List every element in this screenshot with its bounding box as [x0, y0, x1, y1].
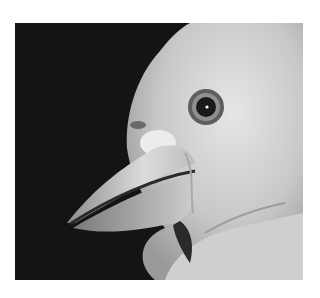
eye [188, 89, 224, 125]
nostril [130, 121, 146, 129]
bird-photo [15, 23, 303, 280]
